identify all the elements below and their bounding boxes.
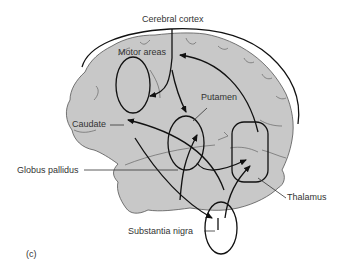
- label-caudate: Caudate: [72, 120, 106, 129]
- panel-label: (c): [26, 250, 37, 259]
- label-motor-areas: Motor areas: [118, 48, 166, 57]
- basal-ganglia-diagram: [0, 0, 345, 263]
- label-putamen: Putamen: [201, 93, 237, 102]
- label-substantia-nigra: Substantia nigra: [128, 227, 193, 236]
- label-thalamus: Thalamus: [287, 193, 327, 202]
- label-globus-pallidus: Globus pallidus: [17, 166, 79, 175]
- label-cerebral-cortex: Cerebral cortex: [142, 15, 204, 24]
